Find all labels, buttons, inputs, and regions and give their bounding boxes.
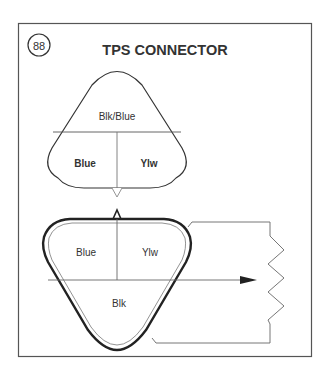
component-cavity-top-left: Blue <box>76 247 96 258</box>
harness-cavity-top: Blk/Blue <box>99 111 136 122</box>
harness-cavity-bottom-right: Ylw <box>140 158 157 169</box>
figure-frame <box>19 24 312 357</box>
component-cavity-bottom: Blk <box>112 298 127 309</box>
figure-number: 88 <box>33 40 45 52</box>
arrowhead-icon <box>240 276 257 284</box>
component-cavity-top-right: Ylw <box>142 247 159 258</box>
harness-cavity-bottom-left: Blue <box>74 158 96 169</box>
component-connector: Blue Ylw Blk <box>43 210 191 350</box>
figure-title: TPS CONNECTOR <box>102 42 228 58</box>
harness-connector: Blk/Blue Blue Ylw <box>48 72 187 198</box>
tps-connector-diagram: 88 TPS CONNECTOR Blk/Blue Blue Ylw Blue … <box>0 0 327 371</box>
